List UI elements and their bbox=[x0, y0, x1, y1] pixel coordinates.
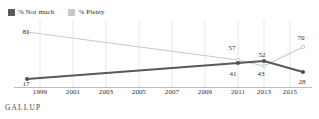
legend-label-not-much: % Not much bbox=[18, 8, 54, 16]
plot-area: 81 17 57 52 70 41 43 28 bbox=[0, 20, 319, 90]
x-tick-2015: 2015 bbox=[283, 88, 297, 97]
legend-item-plenty[interactable]: % Plenty bbox=[68, 8, 104, 16]
label-not-much-2012: 41 bbox=[229, 70, 236, 78]
legend-swatch-plenty bbox=[68, 9, 75, 16]
x-axis-labels: 1999 2001 2003 2005 2007 2009 2011 2013 … bbox=[0, 88, 319, 100]
x-tick-2013: 2013 bbox=[257, 88, 271, 97]
x-tick-2011: 2011 bbox=[231, 88, 245, 97]
x-tick-2003: 2003 bbox=[99, 88, 113, 97]
label-not-much-1998: 17 bbox=[22, 80, 29, 88]
x-tick-2001: 2001 bbox=[66, 88, 80, 97]
label-plenty-2013: 52 bbox=[258, 51, 265, 59]
x-tick-2005: 2005 bbox=[132, 88, 146, 97]
label-not-much-2013: 43 bbox=[257, 70, 264, 78]
gallup-line-chart: % Not much % Plenty bbox=[0, 0, 319, 119]
series-plenty-marker bbox=[262, 64, 265, 67]
series-not-much-marker bbox=[262, 59, 266, 63]
legend-label-plenty: % Plenty bbox=[78, 8, 104, 16]
label-not-much-2016: 28 bbox=[298, 78, 305, 86]
x-tick-1999: 1999 bbox=[33, 88, 47, 97]
series-plenty-marker bbox=[301, 45, 304, 48]
label-plenty-2012: 57 bbox=[228, 44, 235, 52]
label-plenty-2016: 70 bbox=[297, 34, 304, 42]
plot-svg bbox=[0, 20, 319, 90]
series-not-much-marker bbox=[236, 61, 240, 65]
legend-item-not-much[interactable]: % Not much bbox=[8, 8, 54, 16]
series-not-much-marker bbox=[301, 70, 305, 74]
x-tick-2009: 2009 bbox=[198, 88, 212, 97]
label-plenty-1998: 81 bbox=[22, 28, 29, 36]
chart-legend: % Not much % Plenty bbox=[8, 6, 105, 18]
gridlines-vertical bbox=[40, 20, 290, 87]
gallup-brand: GALLUP bbox=[5, 103, 41, 113]
legend-swatch-not-much bbox=[8, 9, 15, 16]
x-tick-2007: 2007 bbox=[165, 88, 179, 97]
